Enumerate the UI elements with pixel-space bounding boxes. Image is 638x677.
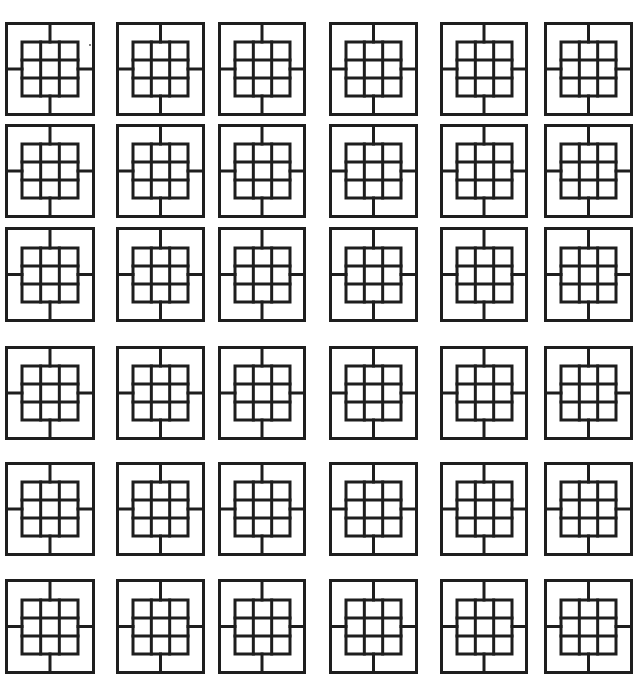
- tile-figure: [440, 579, 528, 674]
- nested-square-icon: [544, 462, 633, 556]
- tile-figure: [544, 462, 633, 556]
- tile-figure: [544, 124, 633, 218]
- tile-figure: [218, 346, 306, 440]
- nested-square-icon: [5, 346, 95, 440]
- tile-figure: [329, 579, 418, 674]
- tile-figure: [329, 346, 418, 440]
- nested-square-icon: [218, 346, 306, 440]
- nested-square-icon: [329, 124, 418, 218]
- tile-figure: [5, 346, 95, 440]
- nested-square-icon: [440, 22, 528, 116]
- nested-square-icon: [329, 579, 418, 674]
- tile-figure: [116, 346, 205, 440]
- nested-square-icon: [329, 227, 418, 322]
- nested-square-icon: [5, 579, 95, 674]
- nested-square-icon: [544, 346, 633, 440]
- tile-figure: [544, 227, 633, 322]
- nested-square-icon: [218, 462, 306, 556]
- tile-figure: [116, 462, 205, 556]
- tile-figure: [440, 22, 528, 116]
- tile-figure: [116, 124, 205, 218]
- tile-sheet: [0, 0, 638, 677]
- tile-figure: [544, 346, 633, 440]
- nested-square-icon: [116, 462, 205, 556]
- tile-figure: [5, 579, 95, 674]
- tile-figure: [440, 462, 528, 556]
- nested-square-icon: [329, 462, 418, 556]
- nested-square-icon: [116, 579, 205, 674]
- tile-figure: [218, 22, 306, 116]
- nested-square-icon: [116, 22, 205, 116]
- tile-figure: [5, 462, 95, 556]
- nested-square-icon: [440, 462, 528, 556]
- print-speck: [89, 44, 91, 46]
- tile-figure: [5, 227, 95, 322]
- tile-figure: [5, 124, 95, 218]
- nested-square-icon: [544, 227, 633, 322]
- tile-figure: [218, 579, 306, 674]
- tile-figure: [329, 22, 418, 116]
- nested-square-icon: [5, 22, 95, 116]
- nested-square-icon: [440, 227, 528, 322]
- tile-figure: [218, 124, 306, 218]
- tile-figure: [5, 22, 95, 116]
- nested-square-icon: [544, 124, 633, 218]
- tile-figure: [544, 579, 633, 674]
- nested-square-icon: [544, 579, 633, 674]
- tile-figure: [116, 227, 205, 322]
- nested-square-icon: [440, 346, 528, 440]
- nested-square-icon: [218, 227, 306, 322]
- tile-figure: [329, 462, 418, 556]
- nested-square-icon: [440, 579, 528, 674]
- nested-square-icon: [329, 22, 418, 116]
- tile-figure: [440, 124, 528, 218]
- nested-square-icon: [218, 579, 306, 674]
- nested-square-icon: [5, 462, 95, 556]
- tile-figure: [329, 227, 418, 322]
- nested-square-icon: [544, 22, 633, 116]
- nested-square-icon: [5, 124, 95, 218]
- nested-square-icon: [116, 346, 205, 440]
- tile-figure: [116, 579, 205, 674]
- tile-figure: [116, 22, 205, 116]
- tile-figure: [544, 22, 633, 116]
- nested-square-icon: [116, 227, 205, 322]
- nested-square-icon: [218, 124, 306, 218]
- tile-figure: [218, 227, 306, 322]
- nested-square-icon: [5, 227, 95, 322]
- tile-figure: [218, 462, 306, 556]
- nested-square-icon: [440, 124, 528, 218]
- nested-square-icon: [218, 22, 306, 116]
- tile-figure: [440, 227, 528, 322]
- nested-square-icon: [116, 124, 205, 218]
- tile-figure: [329, 124, 418, 218]
- nested-square-icon: [329, 346, 418, 440]
- tile-figure: [440, 346, 528, 440]
